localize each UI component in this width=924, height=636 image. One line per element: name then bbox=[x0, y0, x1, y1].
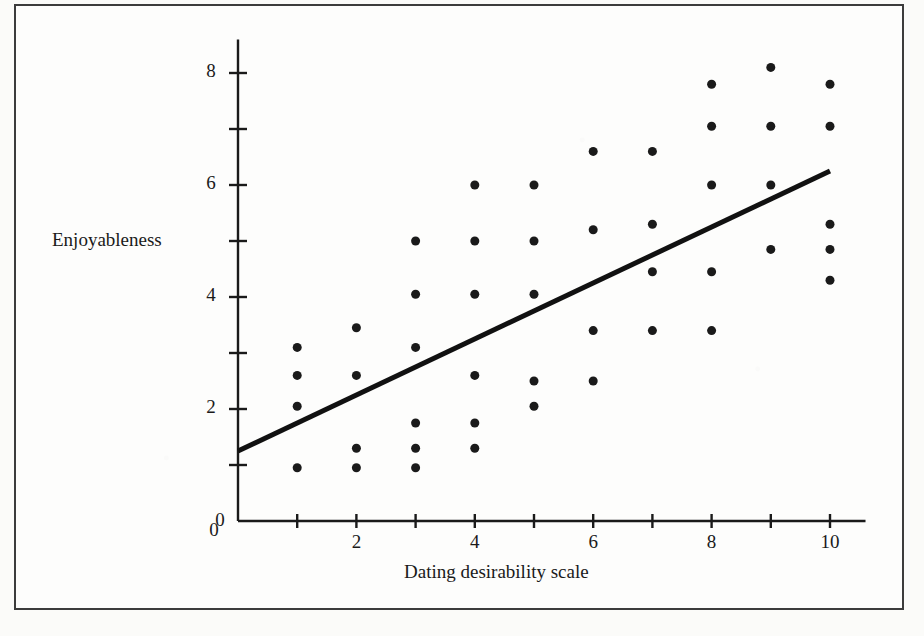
y-tick-label-8: 8 bbox=[198, 60, 224, 82]
figure-page: Enjoyableness Dating desirability scale … bbox=[0, 0, 924, 636]
data-point bbox=[352, 371, 361, 380]
x-tick-label-2: 2 bbox=[341, 531, 371, 553]
data-point bbox=[826, 80, 835, 89]
data-point bbox=[707, 181, 716, 190]
data-point bbox=[530, 290, 539, 299]
data-point bbox=[648, 147, 657, 156]
data-point bbox=[766, 245, 775, 254]
data-point bbox=[530, 377, 539, 386]
y-axis-title: Enjoyableness bbox=[52, 229, 162, 251]
x-tick-label-10: 10 bbox=[815, 531, 845, 553]
x-tick-label-8: 8 bbox=[697, 531, 727, 553]
data-point bbox=[589, 147, 598, 156]
data-point bbox=[766, 122, 775, 131]
data-point bbox=[648, 267, 657, 276]
data-point bbox=[470, 419, 479, 428]
x-tick-label-6: 6 bbox=[578, 531, 608, 553]
y-tick-label-2: 2 bbox=[198, 396, 224, 418]
data-point bbox=[707, 80, 716, 89]
data-point bbox=[352, 444, 361, 453]
data-point bbox=[707, 267, 716, 276]
data-point bbox=[589, 225, 598, 234]
data-point bbox=[411, 237, 420, 246]
data-point bbox=[826, 220, 835, 229]
data-point bbox=[411, 290, 420, 299]
data-point bbox=[826, 276, 835, 285]
data-point bbox=[766, 181, 775, 190]
data-point bbox=[530, 402, 539, 411]
data-point bbox=[293, 343, 302, 352]
data-point bbox=[530, 237, 539, 246]
x-axis-title: Dating desirability scale bbox=[404, 561, 589, 583]
x-tick-label-4: 4 bbox=[460, 531, 490, 553]
data-point bbox=[470, 371, 479, 380]
data-point bbox=[352, 323, 361, 332]
data-point bbox=[411, 419, 420, 428]
data-point bbox=[530, 181, 539, 190]
data-point bbox=[470, 237, 479, 246]
data-point bbox=[293, 371, 302, 380]
axes-group bbox=[238, 39, 866, 521]
data-point bbox=[293, 402, 302, 411]
y-tick-label-6: 6 bbox=[198, 172, 224, 194]
data-point bbox=[707, 326, 716, 335]
y-tick-label-0: 0 bbox=[202, 519, 226, 541]
data-point bbox=[293, 463, 302, 472]
y-tick-label-4: 4 bbox=[198, 284, 224, 306]
data-point bbox=[470, 290, 479, 299]
data-point bbox=[589, 326, 598, 335]
data-point bbox=[826, 122, 835, 131]
data-point bbox=[766, 63, 775, 72]
data-point bbox=[648, 326, 657, 335]
data-point bbox=[470, 444, 479, 453]
data-point bbox=[648, 220, 657, 229]
data-point bbox=[411, 463, 420, 472]
data-point bbox=[707, 122, 716, 131]
data-point bbox=[589, 377, 598, 386]
data-point bbox=[411, 444, 420, 453]
data-point bbox=[352, 463, 361, 472]
data-point bbox=[470, 181, 479, 190]
data-point bbox=[826, 245, 835, 254]
data-point bbox=[411, 343, 420, 352]
data-points-group bbox=[293, 63, 835, 472]
tick-marks-group bbox=[229, 73, 830, 528]
